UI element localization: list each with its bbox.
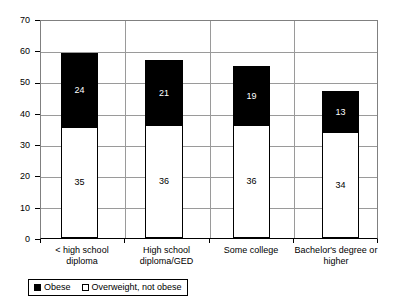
x-axis-category-label-line1: < high school [40, 245, 124, 256]
legend-item-obese: Obese [34, 283, 71, 292]
chart-legend: Obese Overweight, not obese [28, 279, 188, 296]
x-axis-tick-mark [377, 239, 378, 243]
bar-group: 13 34 [322, 91, 359, 238]
x-axis-tick-mark [209, 239, 210, 243]
bar-segment-obese: 19 [233, 66, 270, 126]
legend-item-label: Obese [44, 283, 71, 292]
y-axis-tick-label: 0 [0, 235, 30, 244]
x-axis-tick-mark [124, 239, 125, 243]
bar-segment-overweight: 36 [145, 125, 183, 238]
x-axis-category-label-line1: Bachelor's degree or [291, 245, 381, 256]
x-axis-category-label: Bachelor's degree or higher [291, 245, 381, 267]
x-axis-category-label-line2: diploma [40, 256, 124, 267]
legend-item-overweight: Overweight, not obese [82, 283, 182, 292]
y-axis-tick-label: 10 [0, 204, 30, 213]
x-axis-category-label: < high school diploma [40, 245, 124, 267]
category-separator [294, 21, 295, 238]
x-axis-category-label-line1: Some college [209, 245, 293, 256]
bar-group: 19 36 [233, 66, 270, 238]
bar-segment-overweight: 36 [233, 125, 270, 238]
x-axis-tick-mark [293, 239, 294, 243]
empty-square-icon [82, 284, 89, 291]
category-separator [210, 21, 211, 238]
bar-segment-overweight: 34 [322, 132, 359, 238]
bar-segment-overweight: 35 [61, 127, 98, 238]
x-axis-category-label-line1: High school [124, 245, 209, 256]
y-axis-tick-label: 40 [0, 110, 30, 119]
plot-area: 24 35 21 36 19 36 13 34 [40, 20, 378, 239]
bar-segment-obese: 13 [322, 91, 359, 133]
x-axis-category-label: High school diploma/GED [124, 245, 209, 267]
x-axis-category-label-line2: higher [291, 256, 381, 267]
x-axis-category-label: Some college [209, 245, 293, 256]
y-axis-tick-label: 60 [0, 47, 30, 56]
y-axis-tick-label: 30 [0, 141, 30, 150]
y-axis-tick-label: 20 [0, 172, 30, 181]
bar-group: 21 36 [145, 60, 183, 238]
y-axis-tick-label: 70 [0, 16, 30, 25]
legend-item-label: Overweight, not obese [92, 283, 182, 292]
y-axis-tick-label: 50 [0, 78, 30, 87]
filled-square-icon [34, 284, 41, 291]
x-axis-category-label-line2: diploma/GED [124, 256, 209, 267]
stacked-bar-chart: 70 60 50 40 30 20 10 0 24 35 [0, 0, 398, 307]
x-axis-tick-mark [40, 239, 41, 243]
bar-group: 24 35 [61, 53, 98, 238]
category-separator [125, 21, 126, 238]
bar-segment-obese: 24 [61, 53, 98, 128]
bar-segment-obese: 21 [145, 60, 183, 126]
